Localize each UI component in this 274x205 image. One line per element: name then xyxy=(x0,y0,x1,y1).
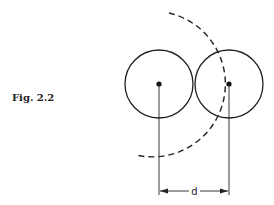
dashed-arc xyxy=(136,13,225,157)
left-arrowhead xyxy=(160,189,168,194)
right-arrowhead xyxy=(220,189,228,194)
dimension-label: d xyxy=(191,186,197,197)
diagram: d xyxy=(0,0,274,205)
